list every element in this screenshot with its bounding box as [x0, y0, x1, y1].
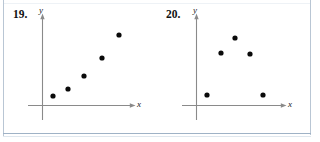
data-point [218, 50, 223, 55]
exercise-panel-19: 19. y x [0, 0, 160, 142]
scatter-plot-19 [0, 0, 160, 142]
data-point [81, 73, 86, 78]
exercise-panel-20: 20. y x [160, 0, 320, 142]
data-point [260, 92, 265, 97]
data-point [65, 86, 70, 91]
page-canvas: 19. y x 20. [0, 0, 320, 142]
data-point [232, 35, 237, 40]
scatter-plot-20 [160, 0, 320, 142]
y-axis-label-20: y [193, 5, 197, 15]
data-point [204, 92, 209, 97]
x-axis-arrow-icon-19 [130, 103, 136, 107]
x-axis-arrow-icon-20 [281, 103, 287, 107]
x-axis-label-20: x [288, 99, 292, 109]
x-axis-label-19: x [137, 99, 141, 109]
y-axis-label-19: y [39, 5, 43, 15]
data-point [99, 55, 104, 60]
data-point [247, 51, 252, 56]
data-point [116, 32, 121, 37]
data-point [50, 93, 55, 98]
